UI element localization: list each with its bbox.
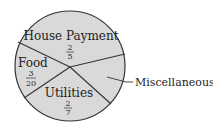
fraction-den-utilities: 7 — [65, 108, 70, 117]
fraction-den-food: 20 — [26, 79, 36, 88]
slice-label-utilities: Utilities — [45, 86, 93, 100]
fraction-num-house: 2 — [67, 43, 72, 52]
slice-label-food: Food — [18, 56, 48, 70]
fraction-num-food: 3 — [28, 69, 33, 78]
slice-label-miscellaneous: Miscellaneous — [135, 76, 213, 89]
pie-chart: House Payment 2 5 Food 3 20 Utilities 2 … — [0, 0, 213, 134]
slice-label-house-payment: House Payment — [24, 29, 119, 43]
fraction-den-house: 5 — [67, 52, 72, 61]
fraction-num-utilities: 2 — [65, 99, 70, 108]
